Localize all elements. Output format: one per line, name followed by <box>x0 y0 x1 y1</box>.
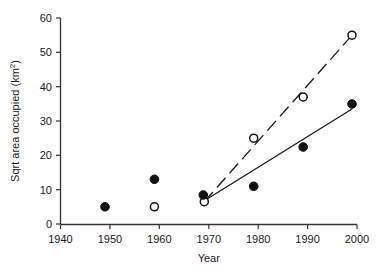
data-point-open-1979 <box>250 134 258 142</box>
data-point-open-1989 <box>299 93 307 101</box>
x-axis-ticks <box>61 225 358 230</box>
y-tick-label-20: 20 <box>40 149 52 161</box>
y-axis-ticks <box>56 18 61 224</box>
chart-figure: 0 10 20 30 40 50 60 1940 1950 1960 1970 … <box>0 0 381 276</box>
dashed-fit-line <box>204 35 352 202</box>
x-tick-label-2000: 2000 <box>345 233 369 245</box>
solid-fit-line <box>204 109 352 201</box>
x-tick-label-1980: 1980 <box>246 233 270 245</box>
data-point-open-1999 <box>348 31 356 39</box>
x-tick-label-1960: 1960 <box>147 233 171 245</box>
data-point-filled-1979 <box>249 182 258 191</box>
data-point-filled-1989 <box>299 143 308 152</box>
x-tick-labels: 1940 1950 1960 1970 1980 1990 2000 <box>48 233 369 245</box>
filled-circle-series <box>101 100 357 211</box>
y-tick-labels: 0 10 20 30 40 50 60 <box>40 12 52 230</box>
x-tick-label-1950: 1950 <box>98 233 122 245</box>
y-axis-title-main: Sqrt area occupied (km <box>9 68 21 182</box>
data-point-filled-1999 <box>348 100 357 109</box>
x-axis-title: Year <box>198 252 221 264</box>
scatter-plot: 0 10 20 30 40 50 60 1940 1950 1960 1970 … <box>0 0 381 276</box>
data-point-open-1959 <box>150 203 158 211</box>
y-tick-label-0: 0 <box>46 218 52 230</box>
data-point-filled-1949 <box>101 203 110 212</box>
y-tick-label-40: 40 <box>40 81 52 93</box>
svg-text:Sqrt area occupied (km2): Sqrt area occupied (km2) <box>8 60 21 182</box>
data-point-filled-1969 <box>199 191 208 200</box>
x-tick-label-1940: 1940 <box>48 233 72 245</box>
y-tick-label-60: 60 <box>40 12 52 24</box>
y-tick-label-50: 50 <box>40 46 52 58</box>
y-axis-title: Sqrt area occupied (km2) <box>8 60 21 182</box>
y-tick-label-30: 30 <box>40 115 52 127</box>
x-tick-label-1970: 1970 <box>197 233 221 245</box>
y-axis-title-suffix: ) <box>9 60 21 64</box>
data-point-filled-1959 <box>150 175 159 184</box>
y-tick-label-10: 10 <box>40 184 52 196</box>
x-tick-label-1990: 1990 <box>295 233 319 245</box>
